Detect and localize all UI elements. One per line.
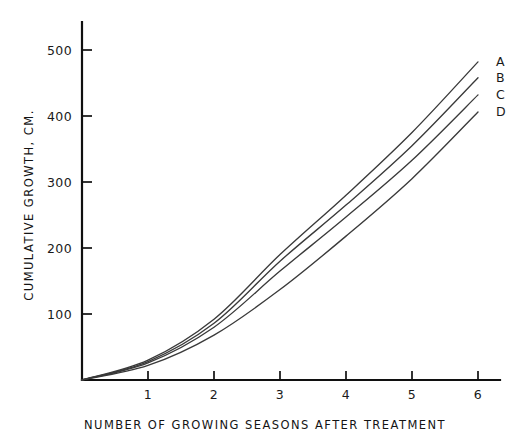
x-tick-label: 5 bbox=[408, 387, 416, 402]
curve-a bbox=[82, 62, 478, 380]
series-label-c: C bbox=[496, 87, 505, 102]
curve-b bbox=[82, 78, 478, 380]
y-tick-labels: 500 400 300 200 100 bbox=[47, 43, 72, 322]
y-tick-label: 100 bbox=[47, 307, 72, 322]
chart-plot-area: 500 400 300 200 100 1 2 3 4 5 6 NUMBER O… bbox=[0, 0, 522, 447]
series-label-d: D bbox=[496, 104, 506, 119]
y-axis-ticks bbox=[82, 50, 92, 314]
data-curves bbox=[82, 62, 478, 380]
y-tick-label: 400 bbox=[47, 109, 72, 124]
y-tick-label: 300 bbox=[47, 175, 72, 190]
series-label-a: A bbox=[496, 54, 505, 69]
x-tick-label: 2 bbox=[210, 387, 218, 402]
y-tick-label: 500 bbox=[47, 43, 72, 58]
y-axis-title: CUMULATIVE GROWTH, CM. bbox=[22, 109, 36, 300]
y-tick-label: 200 bbox=[47, 241, 72, 256]
curve-c bbox=[82, 95, 478, 380]
x-tick-labels: 1 2 3 4 5 6 bbox=[144, 387, 482, 402]
x-tick-label: 6 bbox=[474, 387, 482, 402]
x-axis-ticks bbox=[148, 371, 478, 380]
series-label-b: B bbox=[496, 70, 505, 85]
curve-d bbox=[82, 112, 478, 380]
x-tick-label: 3 bbox=[276, 387, 284, 402]
x-axis-title: NUMBER OF GROWING SEASONS AFTER TREATMEN… bbox=[84, 418, 446, 432]
series-labels: ABCD bbox=[496, 54, 506, 119]
x-tick-label: 4 bbox=[342, 387, 350, 402]
x-tick-label: 1 bbox=[144, 387, 152, 402]
chart-figure: 500 400 300 200 100 1 2 3 4 5 6 NUMBER O… bbox=[0, 0, 522, 447]
